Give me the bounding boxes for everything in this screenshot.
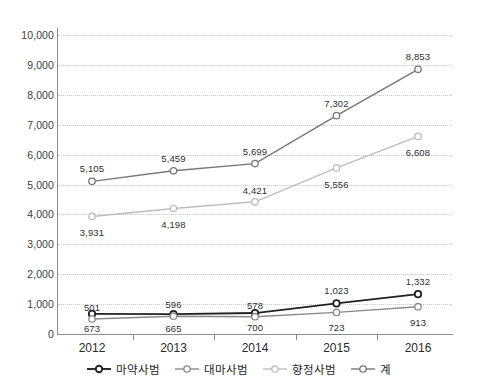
- data-point-label: 4,421: [243, 184, 267, 195]
- data-point-marker[interactable]: [89, 316, 95, 322]
- legend-item-3[interactable]: 향정사범: [262, 361, 336, 377]
- data-point-label: 3,931: [80, 227, 104, 238]
- data-point-marker[interactable]: [415, 291, 421, 297]
- legend-marker-icon: [174, 363, 200, 375]
- data-point-label: 5,699: [243, 145, 267, 156]
- line-chart: 10,0009,0008,0007,0006,0005,0004,0003,00…: [0, 0, 477, 385]
- data-point-marker[interactable]: [333, 165, 339, 171]
- data-point-label: 1,332: [406, 276, 430, 287]
- legend-label: 대마사범: [204, 361, 248, 377]
- data-point-marker[interactable]: [333, 300, 339, 306]
- legend-marker-icon: [86, 363, 112, 375]
- data-point-label: 596: [165, 299, 181, 310]
- data-point-label: 723: [328, 322, 344, 333]
- data-point-label: 578: [247, 299, 263, 310]
- data-point-marker[interactable]: [170, 168, 176, 174]
- data-point-label: 5,556: [324, 178, 348, 189]
- legend-label: 향정사범: [292, 361, 336, 377]
- data-point-label: 1,023: [324, 285, 348, 296]
- legend-marker-icon: [350, 363, 376, 375]
- data-point-marker[interactable]: [415, 66, 421, 72]
- legend-marker-icon: [262, 363, 288, 375]
- data-point-label: 7,302: [324, 97, 348, 108]
- data-point-label: 4,198: [161, 219, 185, 230]
- data-point-marker[interactable]: [170, 313, 176, 319]
- legend-label: 마약사범: [116, 361, 160, 377]
- series-4: [89, 66, 421, 184]
- chart-legend: 마약사범대마사범향정사범계: [0, 358, 477, 380]
- data-point-marker[interactable]: [170, 205, 176, 211]
- data-point-label: 700: [247, 322, 263, 333]
- data-point-label: 665: [165, 323, 181, 334]
- data-point-marker[interactable]: [252, 314, 258, 320]
- data-point-label: 501: [84, 302, 100, 313]
- data-point-label: 8,853: [406, 51, 430, 62]
- data-point-label: 5,459: [161, 152, 185, 163]
- legend-item-2[interactable]: 대마사범: [174, 361, 248, 377]
- data-point-marker[interactable]: [252, 160, 258, 166]
- data-point-label: 673: [84, 322, 100, 333]
- legend-item-4[interactable]: 계: [350, 361, 391, 377]
- data-point-marker[interactable]: [89, 213, 95, 219]
- data-point-label: 913: [410, 316, 426, 327]
- data-point-marker[interactable]: [89, 178, 95, 184]
- data-point-marker[interactable]: [252, 199, 258, 205]
- legend-item-1[interactable]: 마약사범: [86, 361, 160, 377]
- data-point-label: 6,608: [406, 147, 430, 158]
- data-point-marker[interactable]: [415, 304, 421, 310]
- legend-label: 계: [380, 361, 391, 377]
- data-point-marker[interactable]: [415, 133, 421, 139]
- data-point-label: 5,105: [80, 163, 104, 174]
- data-point-marker[interactable]: [333, 309, 339, 315]
- data-point-marker[interactable]: [333, 112, 339, 118]
